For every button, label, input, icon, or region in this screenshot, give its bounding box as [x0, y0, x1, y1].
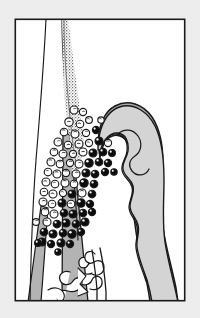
dark-cell: [91, 170, 99, 178]
open-cell: [59, 189, 66, 196]
open-cell: [65, 118, 73, 126]
open-cell: [41, 208, 49, 216]
dark-cell: [72, 220, 80, 228]
dark-cell: [58, 199, 66, 207]
dark-cell: [77, 228, 84, 235]
open-cell: [47, 158, 55, 166]
dark-cell: [53, 220, 61, 228]
open-cell: [59, 150, 67, 158]
open-cell: [62, 169, 69, 176]
dark-cell: [88, 190, 96, 198]
figure-canvas: [0, 0, 200, 318]
open-cell: [104, 139, 111, 146]
open-cell: [61, 179, 69, 187]
open-cell: [51, 180, 59, 188]
open-cell: [69, 150, 76, 157]
open-cell: [64, 141, 72, 149]
open-cell: [76, 120, 84, 128]
open-cell: [72, 170, 80, 178]
dark-cell: [80, 179, 88, 187]
open-cell: [48, 200, 56, 208]
open-cell: [53, 170, 61, 178]
dark-cell: [68, 190, 76, 198]
dark-cell: [60, 209, 68, 217]
open-cell: [85, 139, 92, 146]
open-cell: [66, 159, 73, 166]
open-cell: [79, 108, 86, 115]
open-cell: [50, 210, 58, 218]
open-cell: [60, 128, 68, 136]
dark-cell: [111, 169, 117, 175]
dark-cell: [109, 150, 116, 157]
dark-cell: [57, 239, 65, 247]
open-cell: [70, 180, 78, 188]
open-cell: [49, 190, 57, 198]
dark-cell: [99, 148, 107, 156]
dark-cell: [95, 137, 103, 145]
open-cell: [70, 106, 78, 114]
open-cell: [78, 189, 86, 197]
dark-cell: [95, 158, 103, 166]
dark-cell: [85, 159, 93, 167]
open-cell: [75, 160, 83, 168]
dark-cell: [81, 218, 89, 226]
dark-cell: [104, 159, 111, 166]
dark-cell: [40, 228, 48, 236]
open-cell: [40, 188, 48, 196]
dark-cell: [69, 210, 77, 218]
dark-cell: [90, 180, 98, 188]
open-cell: [67, 200, 75, 208]
open-cell: [75, 140, 83, 148]
open-cell: [33, 219, 40, 226]
open-cell: [98, 117, 104, 123]
dark-cell: [66, 240, 73, 247]
dark-cell: [89, 149, 97, 157]
dark-cell: [88, 208, 95, 215]
open-cell: [50, 148, 58, 156]
dark-cell: [86, 200, 93, 207]
open-cell: [79, 148, 87, 156]
dark-cell: [49, 230, 57, 238]
figure-root: [0, 0, 200, 318]
dark-cell: [62, 219, 70, 227]
dark-cell: [101, 168, 108, 175]
dark-cell: [77, 199, 85, 207]
dark-cell: [92, 126, 99, 133]
open-cell: [86, 117, 93, 124]
dark-cell: [68, 230, 76, 238]
open-cell: [43, 218, 51, 226]
dark-cell: [35, 240, 42, 247]
dark-cell: [47, 240, 54, 247]
open-cell: [54, 138, 62, 146]
dark-cell: [59, 229, 67, 237]
open-cell: [44, 168, 52, 176]
dark-cell: [55, 249, 61, 255]
dark-cell: [82, 169, 90, 177]
open-cell: [42, 178, 50, 186]
open-cell: [56, 160, 64, 168]
open-cell: [39, 198, 47, 206]
open-cell: [82, 129, 89, 136]
open-cell: [71, 130, 79, 138]
dark-cell: [79, 209, 87, 217]
